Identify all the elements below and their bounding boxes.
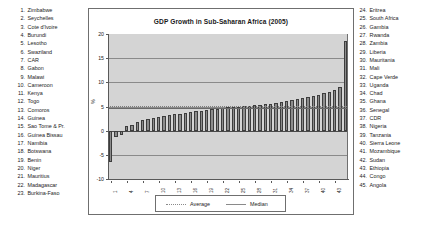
- country-index: 34.: [356, 89, 367, 97]
- country-index: 26.: [356, 23, 367, 31]
- y-tick-label: 10: [89, 79, 104, 85]
- country-list-item: 20.Niger: [14, 164, 84, 172]
- country-index: 4.: [14, 31, 25, 39]
- country-index: 8.: [14, 64, 25, 72]
- country-index: 43.: [356, 164, 367, 172]
- legend-swatch-average: [166, 204, 186, 205]
- bar: [226, 107, 229, 130]
- x-tick-label: 13: [177, 188, 182, 193]
- country-name: Eritrea: [370, 7, 386, 13]
- country-list-item: 16.Guinea Bissau: [14, 131, 84, 139]
- country-list-item: 17.Namibia: [14, 139, 84, 147]
- country-index: 2.: [14, 14, 25, 22]
- y-tick-label: 5: [89, 104, 104, 110]
- x-tick-label: 25: [241, 188, 246, 193]
- bar: [333, 90, 336, 131]
- country-name: Comoros: [28, 107, 50, 113]
- country-name: Sudan: [370, 157, 386, 163]
- bar: [322, 93, 325, 130]
- country-index: 17.: [14, 139, 25, 147]
- bar: [242, 106, 245, 131]
- y-tick-label: 0: [89, 128, 104, 134]
- bar: [152, 118, 155, 131]
- country-list-item: 34.Chad: [356, 89, 442, 97]
- bar: [221, 108, 224, 130]
- country-index: 40.: [356, 139, 367, 147]
- y-tick-mark: [106, 179, 108, 180]
- country-name: Cape Verde: [370, 74, 398, 80]
- bar: [210, 109, 213, 130]
- country-index: 29.: [356, 48, 367, 56]
- country-name: Togo: [28, 98, 40, 104]
- x-tick-label: 31: [273, 188, 278, 193]
- country-list-item: 33.Uganda: [356, 81, 442, 89]
- bar: [173, 114, 176, 130]
- country-index: 6.: [14, 48, 25, 56]
- country-name: Sao Tome & Pr.: [28, 123, 65, 129]
- x-tick-label: 4: [129, 190, 134, 193]
- country-name: Cameroon: [28, 82, 53, 88]
- country-name: Burundi: [28, 32, 47, 38]
- bar: [157, 117, 160, 131]
- country-list-item: 2.Seychelles: [14, 14, 84, 22]
- x-tick-label: 40: [321, 188, 326, 193]
- x-tick-mark: [335, 181, 336, 183]
- country-list-item: 21.Mauritius: [14, 172, 84, 180]
- country-index: 21.: [14, 172, 25, 180]
- bar: [168, 115, 171, 130]
- country-list-item: 22.Madagascar: [14, 181, 84, 189]
- country-list-item: 9.Malawi: [14, 73, 84, 81]
- country-index: 31.: [356, 64, 367, 72]
- country-list-item: 3.Cote d'Ivoire: [14, 23, 84, 31]
- country-index: 12.: [14, 97, 25, 105]
- y-tick-label: -5: [89, 152, 104, 158]
- country-index: 35.: [356, 97, 367, 105]
- chart-container: GDP Growth in Sub-Saharan Africa (2005) …: [88, 8, 354, 215]
- country-index: 28.: [356, 39, 367, 47]
- country-index: 41.: [356, 147, 367, 155]
- country-list-left: 1.Zimbabwe2.Seychelles3.Cote d'Ivoire4.B…: [14, 6, 84, 197]
- country-name: Botswana: [28, 148, 52, 154]
- x-tick-mark: [239, 181, 240, 183]
- country-index: 18.: [14, 147, 25, 155]
- bar: [312, 96, 315, 131]
- x-tick-mark: [223, 181, 224, 183]
- country-list-item: 40.Sierra Leone: [356, 139, 442, 147]
- country-list-item: 25.South Africa: [356, 14, 442, 22]
- bar: [141, 120, 144, 131]
- x-tick-mark: [255, 181, 256, 183]
- bar: [178, 114, 181, 131]
- country-list-right: 24.Eritrea25.South Africa26.Gambia27.Rwa…: [356, 6, 442, 189]
- country-list-item: 37.CDR: [356, 114, 442, 122]
- country-name: Niger: [28, 165, 41, 171]
- country-name: Gambia: [370, 24, 389, 30]
- bar: [306, 97, 309, 131]
- country-list-item: 39.Tanzania: [356, 131, 442, 139]
- country-name: Zambia: [370, 40, 388, 46]
- country-list-item: 26.Gambia: [356, 23, 442, 31]
- country-index: 33.: [356, 81, 367, 89]
- bar: [274, 103, 277, 131]
- country-name: Malawi: [28, 74, 45, 80]
- chart-screenshot: 1.Zimbabwe2.Seychelles3.Cote d'Ivoire4.B…: [0, 0, 446, 228]
- country-index: 3.: [14, 23, 25, 31]
- country-name: Benin: [28, 157, 42, 163]
- legend-label-average: Average: [190, 201, 210, 207]
- country-name: Lesotho: [28, 40, 47, 46]
- country-name: Liberia: [370, 49, 386, 55]
- x-axis-line: [108, 179, 349, 180]
- country-list-item: 6.Swaziland: [14, 48, 84, 56]
- bar: [136, 122, 139, 131]
- country-index: 11.: [14, 89, 25, 97]
- country-name: Mauritius: [28, 173, 50, 179]
- legend-label-median: Median: [250, 201, 268, 207]
- country-list-item: 23.Burkina-Faso: [14, 189, 84, 197]
- country-name: Gabon: [28, 65, 44, 71]
- x-tick-mark: [191, 181, 192, 183]
- x-tick-label: 16: [193, 188, 198, 193]
- country-name: Madagascar: [28, 182, 58, 188]
- bar: [189, 112, 192, 130]
- x-tick-label: 37: [305, 188, 310, 193]
- bar: [194, 111, 197, 130]
- x-tick-mark: [207, 181, 208, 183]
